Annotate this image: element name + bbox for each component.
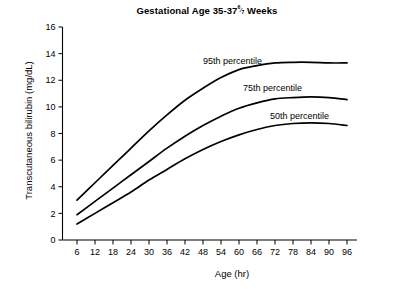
y-tick-label: 16 — [45, 22, 55, 32]
x-tick-label: 66 — [252, 247, 262, 257]
x-tick-label: 78 — [288, 247, 298, 257]
y-tick-label: 6 — [50, 155, 55, 165]
y-tick-label: 14 — [45, 49, 55, 59]
percentile-curve — [77, 123, 347, 224]
x-tick-label: 24 — [126, 247, 136, 257]
x-tick-label: 54 — [216, 247, 226, 257]
y-tick-label: 8 — [50, 129, 55, 139]
x-tick-label: 72 — [270, 247, 280, 257]
chart-plot-area: 0246810121416 61218243036424854606672788… — [0, 0, 414, 292]
chart-page: Gestational Age 35-376⁄7 Weeks Transcuta… — [0, 0, 414, 292]
x-tick-label: 84 — [306, 247, 316, 257]
x-axis: 6121824303642485460667278849096 — [63, 240, 358, 257]
y-tick-label: 4 — [50, 182, 55, 192]
y-tick-label: 10 — [45, 102, 55, 112]
x-tick-label: 96 — [342, 247, 352, 257]
x-tick-label: 90 — [324, 247, 334, 257]
series-annotations: 95th percentile75th percentile50th perce… — [203, 56, 329, 121]
y-tick-label: 0 — [50, 235, 55, 245]
x-tick-label: 18 — [108, 247, 118, 257]
curve-annotation-label: 50th percentile — [270, 111, 329, 121]
x-tick-label: 12 — [90, 247, 100, 257]
y-tick-label: 2 — [50, 209, 55, 219]
curve-annotation-label: 75th percentile — [243, 83, 302, 93]
y-tick-label: 12 — [45, 75, 55, 85]
data-curves — [77, 62, 347, 224]
x-tick-label: 42 — [180, 247, 190, 257]
percentile-curve — [77, 62, 347, 200]
x-tick-label: 30 — [144, 247, 154, 257]
y-axis: 0246810121416 — [45, 22, 62, 245]
x-tick-label: 6 — [74, 247, 79, 257]
x-tick-label: 60 — [234, 247, 244, 257]
x-tick-label: 36 — [162, 247, 172, 257]
x-tick-label: 48 — [198, 247, 208, 257]
curve-annotation-label: 95th percentile — [203, 56, 262, 66]
